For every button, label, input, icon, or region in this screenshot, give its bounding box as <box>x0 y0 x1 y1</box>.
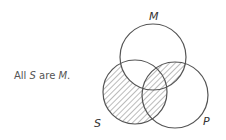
label-s: S <box>94 117 101 130</box>
label-p: P <box>203 115 210 128</box>
venn-diagram: M S P <box>0 0 226 140</box>
label-m: M <box>149 10 159 23</box>
shaded-s-not-m <box>0 0 226 140</box>
